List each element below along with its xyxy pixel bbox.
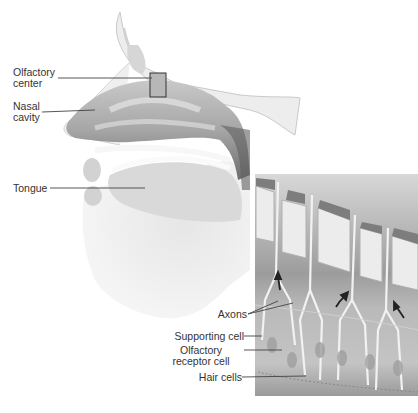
label-line: receptor cell bbox=[160, 356, 242, 367]
olfactory-center-box bbox=[150, 73, 166, 97]
label-tongue: Tongue bbox=[13, 183, 47, 194]
label-line: Tongue bbox=[13, 183, 47, 194]
label-supporting-cell: Supporting cell bbox=[160, 331, 244, 342]
label-olfactory-center: Olfactory center bbox=[13, 67, 55, 89]
label-axons: Axons bbox=[200, 309, 247, 320]
label-line: cavity bbox=[13, 112, 40, 123]
label-nasal-cavity: Nasal cavity bbox=[13, 101, 40, 123]
olfactory-epithelium-inset bbox=[255, 174, 418, 396]
label-line: Hair cells bbox=[180, 372, 242, 383]
label-hair-cells: Hair cells bbox=[180, 372, 242, 383]
label-line: Axons bbox=[200, 309, 247, 320]
label-line: center bbox=[13, 78, 55, 89]
label-olfactory-receptor-cell: Olfactory receptor cell bbox=[160, 345, 242, 367]
label-line: Supporting cell bbox=[160, 331, 244, 342]
